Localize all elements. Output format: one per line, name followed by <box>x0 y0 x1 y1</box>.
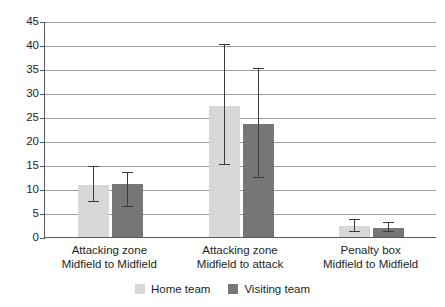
y-tick-label-15: 15 <box>3 160 39 172</box>
chart-legend: Home teamVisiting team <box>0 283 445 295</box>
error-bar-cap-upper <box>253 68 264 69</box>
error-bar-line <box>224 45 225 165</box>
y-tick-label-40: 40 <box>3 40 39 52</box>
y-tick-35 <box>40 70 45 71</box>
error-bar-cap-upper <box>383 222 394 223</box>
legend-label: Visiting team <box>244 283 310 295</box>
legend-item-visiting-team[interactable]: Visiting team <box>228 283 310 295</box>
error-bar-cap-upper <box>349 219 360 220</box>
bar-chart: 051015202530354045 Attacking zoneMidfiel… <box>0 0 445 307</box>
bar-home-2[interactable] <box>209 22 240 237</box>
x-label-line1: Penalty box <box>341 244 401 256</box>
bar-home-3[interactable] <box>339 22 370 237</box>
bar-home-1[interactable] <box>78 22 109 237</box>
y-tick-45 <box>40 22 45 23</box>
y-tick-5 <box>40 214 45 215</box>
error-bar-cap-lower <box>253 177 264 178</box>
error-bar-cap-lower <box>88 201 99 202</box>
y-tick-label-30: 30 <box>3 88 39 100</box>
legend-swatch-icon <box>135 284 145 294</box>
y-tick-label-5: 5 <box>3 208 39 220</box>
bar-visiting-1[interactable] <box>112 22 143 237</box>
legend-label: Home team <box>151 283 210 295</box>
error-bar-cap-upper <box>122 172 133 173</box>
x-axis-labels: Attacking zoneMidfield to MidfieldAttack… <box>44 243 436 277</box>
y-tick-15 <box>40 166 45 167</box>
legend-swatch-icon <box>228 284 238 294</box>
error-bar-cap-upper <box>88 166 99 167</box>
x-label-line1: Attacking zone <box>72 244 147 256</box>
x-label-line1: Attacking zone <box>202 244 277 256</box>
error-bar-cap-lower <box>349 231 360 232</box>
y-tick-label-45: 45 <box>3 16 39 28</box>
error-bar-line <box>127 173 128 207</box>
bar-visiting-2[interactable] <box>243 22 274 237</box>
y-tick-20 <box>40 142 45 143</box>
y-tick-10 <box>40 190 45 191</box>
error-bar-cap-lower <box>122 206 133 207</box>
error-bar-cap-lower <box>219 164 230 165</box>
legend-item-home-team[interactable]: Home team <box>135 283 210 295</box>
y-tick-label-35: 35 <box>3 64 39 76</box>
y-tick-label-10: 10 <box>3 184 39 196</box>
y-tick-30 <box>40 94 45 95</box>
y-tick-0 <box>40 238 45 239</box>
plot-area <box>44 22 436 238</box>
y-tick-40 <box>40 46 45 47</box>
bar-visiting-3[interactable] <box>373 22 404 237</box>
y-tick-label-20: 20 <box>3 136 39 148</box>
x-axis-label-3: Penalty boxMidfield to Midfield <box>281 243 445 271</box>
error-bar-cap-lower <box>383 231 394 232</box>
y-tick-25 <box>40 118 45 119</box>
error-bar-line <box>258 69 259 178</box>
error-bar-line <box>93 167 94 202</box>
y-tick-label-25: 25 <box>3 112 39 124</box>
x-label-line2: Midfield to Midfield <box>281 257 445 271</box>
y-axis-labels: 051015202530354045 <box>0 22 39 238</box>
error-bar-cap-upper <box>219 44 230 45</box>
